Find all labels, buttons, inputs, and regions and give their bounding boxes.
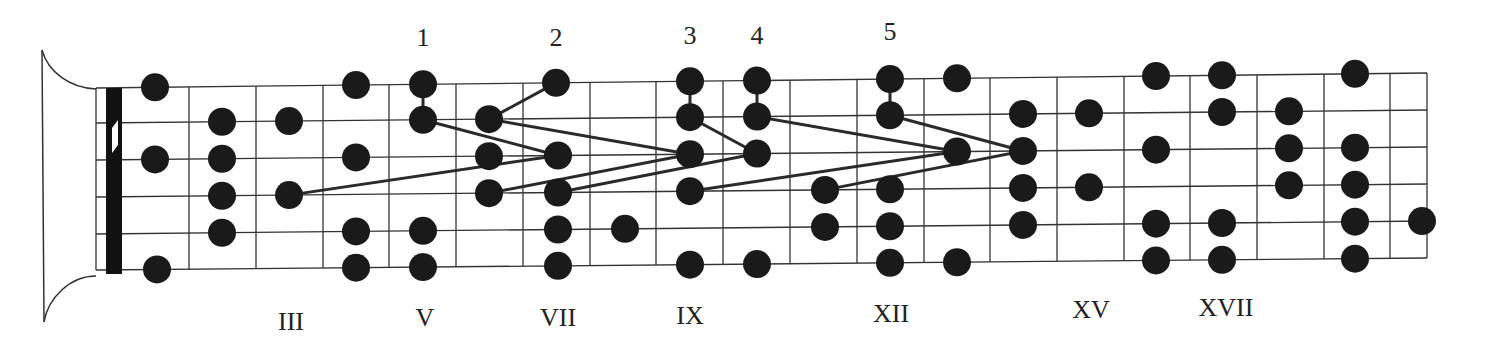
note-dot [1341, 60, 1369, 88]
note-dot [943, 64, 971, 92]
note-dot [475, 142, 503, 170]
note-dots [141, 60, 1436, 284]
note-dot [208, 145, 236, 173]
note-dot [542, 69, 570, 97]
note-dot [943, 248, 971, 276]
note-dot [676, 103, 704, 131]
note-dot [208, 108, 236, 136]
note-dot [141, 73, 169, 101]
note-dot [876, 175, 904, 203]
note-dot [1009, 137, 1037, 165]
shape-number-label: 5 [884, 17, 897, 46]
note-dot [943, 138, 971, 166]
note-dot [475, 105, 503, 133]
note-dot [876, 65, 904, 93]
fret-position-marker: IX [676, 301, 704, 330]
note-dot [811, 176, 839, 204]
note-dot [676, 140, 704, 168]
note-dot [611, 215, 639, 243]
note-dot [1009, 211, 1037, 239]
shape-number-label: 1 [417, 23, 430, 52]
note-dot [743, 67, 771, 95]
note-dot [1341, 171, 1369, 199]
note-dot [342, 254, 370, 282]
note-dot [1341, 134, 1369, 162]
fret-position-markers: IIIVVIIIXXIIXVXVII [278, 293, 1253, 336]
note-dot [876, 249, 904, 277]
fret-position-marker: III [278, 307, 304, 336]
fret-position-marker: XV [1072, 295, 1110, 324]
note-dot [544, 215, 572, 243]
note-dot [275, 181, 303, 209]
note-dot [743, 250, 771, 278]
note-dot [275, 107, 303, 135]
nut [106, 88, 122, 274]
note-dot [342, 71, 370, 99]
fret-position-marker: VII [540, 303, 576, 332]
fret-position-marker: XVII [1199, 293, 1254, 322]
note-dot [676, 67, 704, 95]
fretboard-diagram: 12345 IIIVVIIIXXIIXVXVII [0, 0, 1493, 356]
note-dot [544, 141, 572, 169]
note-dot [141, 145, 169, 173]
shape-number-label: 2 [550, 23, 563, 52]
note-dot [1009, 174, 1037, 202]
note-dot [1208, 209, 1236, 237]
shape-number-label: 4 [751, 21, 764, 50]
note-dot [409, 217, 437, 245]
note-dot [1142, 136, 1170, 164]
note-dot [1275, 171, 1303, 199]
note-dot [544, 178, 572, 206]
note-dot [409, 253, 437, 281]
note-dot [1341, 208, 1369, 236]
note-dot [409, 70, 437, 98]
note-dot [208, 219, 236, 247]
note-dot [676, 251, 704, 279]
headstock-outline [42, 50, 96, 322]
note-dot [876, 101, 904, 129]
shape-number-labels: 12345 [417, 17, 897, 52]
note-dot [676, 177, 704, 205]
connector-line [289, 155, 558, 195]
note-dot [1408, 207, 1436, 235]
note-dot [342, 217, 370, 245]
note-dot [1075, 99, 1103, 127]
note-dot [1208, 246, 1236, 274]
note-dot [1142, 62, 1170, 90]
note-dot [1208, 98, 1236, 126]
note-dot [876, 212, 904, 240]
note-dot [1341, 245, 1369, 273]
note-dot [1208, 61, 1236, 89]
note-dot [1009, 100, 1037, 128]
fret-position-marker: V [416, 303, 435, 332]
note-dot [208, 182, 236, 210]
shape-number-label: 3 [684, 21, 697, 50]
note-dot [342, 143, 370, 171]
note-dot [409, 106, 437, 134]
note-dot [475, 179, 503, 207]
note-dot [544, 252, 572, 280]
note-dot [1142, 210, 1170, 238]
note-dot [743, 103, 771, 131]
note-dot [1275, 134, 1303, 162]
fret-position-marker: XII [873, 299, 909, 328]
note-dot [811, 213, 839, 241]
note-dot [1275, 97, 1303, 125]
note-dot [143, 255, 171, 283]
note-dot [1142, 246, 1170, 274]
note-dot [1075, 173, 1103, 201]
note-dot [743, 140, 771, 168]
